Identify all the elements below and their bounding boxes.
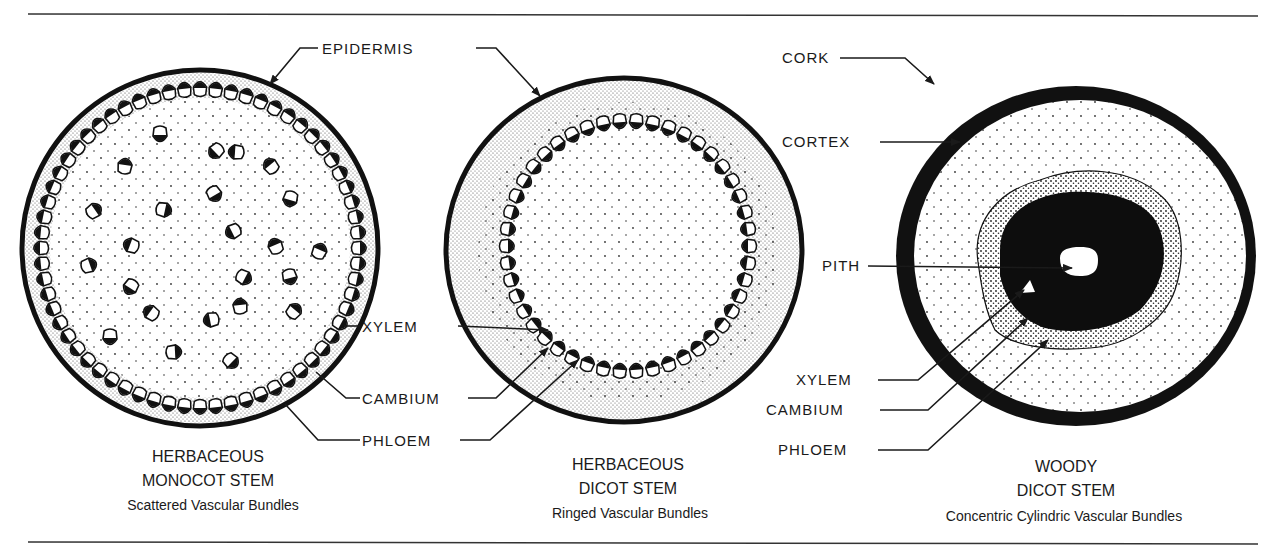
vascular-bundle-icon [613,113,627,129]
label-woody-phloem: PHLOEM [778,441,847,458]
vascular-bundle-icon [34,241,49,254]
vascular-bundle-icon [228,145,244,160]
vascular-bundle-icon [613,363,627,379]
monocot-subtitle: Scattered Vascular Bundles [127,497,299,513]
vascular-bundle-icon [166,345,182,360]
vascular-bundle-icon [193,82,206,97]
woody-dicot-stem [896,86,1256,426]
vascular-bundle-icon [629,113,643,129]
herb-dicot-subtitle: Ringed Vascular Bundles [552,505,708,521]
label-woody-xylem: XYLEM [796,371,852,388]
woody-title-line1: WOODY [1035,458,1098,475]
vascular-bundle-icon [351,241,366,254]
label-xylem: XYLEM [362,318,418,335]
label-pith: PITH [822,257,860,274]
woody-pith [1060,247,1098,276]
vascular-bundle-icon [499,239,514,252]
label-epidermis: EPIDERMIS [322,40,414,57]
label-woody-cambium: CAMBIUM [766,401,844,418]
herb-dicot-title-line2: DICOT STEM [579,480,677,497]
monocot-stem [22,70,378,426]
vascular-bundle-icon [103,329,117,345]
monocot-title-line2: MONOCOT STEM [142,472,274,489]
bottom-rule [28,542,1258,544]
vascular-bundle-icon [153,126,167,142]
vascular-bundle-icon [193,399,206,414]
label-phloem: PHLOEM [362,432,431,449]
woody-title-line2: DICOT STEM [1017,482,1115,499]
monocot-title-line1: HERBACEOUS [152,448,264,465]
label-cork: CORK [782,49,829,66]
top-rule [28,14,1258,16]
herb-dicot-title-line1: HERBACEOUS [572,456,684,473]
vascular-bundle-icon [629,363,643,379]
woody-subtitle: Concentric Cylindric Vascular Bundles [946,508,1182,524]
label-cortex: CORTEX [782,133,850,150]
vascular-bundle-icon [742,239,757,252]
label-cambium: CAMBIUM [362,390,440,407]
stem-cross-section-diagram: EPIDERMIS XYLEM CAMBIUM PHLOEM CORK CORT… [0,0,1278,556]
herbaceous-dicot-stem [446,78,802,422]
